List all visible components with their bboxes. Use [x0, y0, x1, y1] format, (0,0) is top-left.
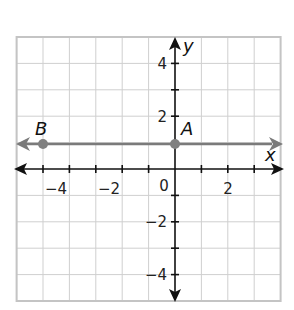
x-tick-label-2: 2 [223, 180, 233, 198]
y-tick-label-2: 2 [157, 108, 167, 126]
y-tick-label-4: 4 [157, 55, 167, 73]
x-axis-label: x [264, 144, 276, 165]
point-b-label: B [35, 118, 47, 139]
coordinate-plane: B A x y −4 −2 0 2 4 2 −2 −4 [0, 0, 294, 310]
x-axis [22, 165, 276, 173]
x-tick-label-neg2: −2 [98, 180, 120, 198]
point-a [170, 139, 180, 149]
x-tick-label-neg4: −4 [45, 180, 67, 198]
y-axis-label: y [182, 35, 194, 56]
origin-label: 0 [159, 177, 169, 195]
point-a-label: A [180, 118, 193, 139]
y-tick-label-neg2: −2 [145, 213, 167, 231]
y-tick-label-neg4: −4 [145, 266, 167, 284]
point-b [38, 139, 48, 149]
